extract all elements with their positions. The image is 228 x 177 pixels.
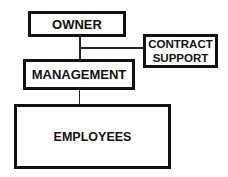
contract-support-label-line1: CONTRACT [148,37,213,51]
management-label: MANAGEMENT [32,67,127,82]
contract-support-label-line2: SUPPORT [153,51,209,65]
contract-support-connector [80,47,143,49]
employees-box: EMPLOYEES [14,104,171,169]
contract-support-box: CONTRACT SUPPORT [143,34,218,68]
management-employees-connector [79,90,81,104]
employees-label: EMPLOYEES [54,130,132,144]
owner-label: OWNER [52,17,102,32]
management-box: MANAGEMENT [23,59,135,90]
owner-box: OWNER [28,11,126,37]
